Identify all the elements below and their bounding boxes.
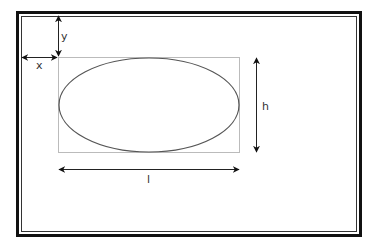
diagram-canvas <box>0 0 377 247</box>
label-h: h <box>262 101 269 112</box>
ellipse <box>59 58 239 152</box>
label-x: x <box>36 60 43 71</box>
label-y: y <box>61 31 68 42</box>
outer-frame <box>18 13 361 236</box>
inner-frame <box>22 17 357 232</box>
label-l: l <box>147 174 150 185</box>
